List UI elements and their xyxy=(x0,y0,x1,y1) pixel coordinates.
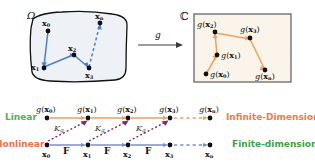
domain-label-x1-sub: 1 xyxy=(36,66,39,72)
codomain-node-gx0 xyxy=(204,72,209,77)
koopman-arrowheads xyxy=(81,121,169,126)
ladder-top-label-3-sub: 3 xyxy=(172,108,175,114)
codomain-node-gx2 xyxy=(213,30,218,35)
codomain-label-gx3: g(x3) xyxy=(240,25,260,34)
ladder-top-label-2-sub: 2 xyxy=(130,108,133,114)
domain-label-x3-sub: 3 xyxy=(90,74,93,80)
ladder-bottom-node-0 xyxy=(45,143,50,148)
koopman-operator-label-0: Kg xyxy=(54,125,64,134)
figure-root: Ω ℂ g x0 x1 x2 x3 xn g(x2) g(x3) g(x1) g… xyxy=(0,0,315,164)
flow-map-label-0: F xyxy=(63,147,69,156)
ladder-bottom-label-0: x0 xyxy=(42,150,50,159)
domain-label-x3: x3 xyxy=(85,71,93,80)
koopman-operator-label-2: Kg xyxy=(136,125,146,134)
koopman-diagonal-arrows xyxy=(48,122,166,141)
codomain-label-gx2: g(x2) xyxy=(197,20,217,29)
ladder-bottom-node-3 xyxy=(168,143,173,148)
codomain-label-gx1: g(x1) xyxy=(221,51,241,60)
ladder-bottom-label-2-sub: 2 xyxy=(128,153,131,159)
codomain-label-gx2-sub: 2 xyxy=(210,23,213,29)
ladder-top-label-n: g(xn) xyxy=(199,105,219,114)
ladder-bottom-node-1 xyxy=(86,143,91,148)
ladder-top-label-n-sub: n xyxy=(212,108,216,114)
codomain-node-gx3 xyxy=(248,36,253,41)
ladder-bottom-label-0-sub: 0 xyxy=(47,153,50,159)
ladder-top-node-2 xyxy=(126,116,131,121)
ladder-top-label-1: g(x1) xyxy=(77,105,97,114)
ladder-bottom-node-2 xyxy=(126,143,131,148)
domain-label-x1: x1 xyxy=(31,63,39,72)
flow-map-label-2: F xyxy=(145,147,151,156)
ladder-bottom-label-1: x1 xyxy=(83,150,91,159)
koopman-operator-label-1: Kg xyxy=(95,125,105,134)
domain-node-x2 xyxy=(72,53,77,58)
codomain-label-gxn-sub: n xyxy=(268,75,272,81)
ladder-bottom-label-n-sub: n xyxy=(210,153,214,159)
codomain-symbol: ℂ xyxy=(180,11,189,22)
nonlinear-row-dashed-arrowhead xyxy=(203,143,208,147)
ladder-bottom-label-1-sub: 1 xyxy=(88,153,91,159)
map-arrow-g xyxy=(138,42,183,48)
domain-label-xn: xn xyxy=(95,12,103,21)
row-label-linear: Linear xyxy=(5,113,37,122)
codomain-node-gx1 xyxy=(215,53,220,58)
ladder-top-node-n xyxy=(208,116,213,121)
domain-node-x1 xyxy=(42,66,47,71)
codomain-label-gx1-sub: 1 xyxy=(234,54,237,60)
ladder-top-label-0-sub: 0 xyxy=(49,108,52,114)
domain-label-xn-sub: n xyxy=(100,15,104,21)
domain-label-x0: x0 xyxy=(42,19,50,28)
map-label-g: g xyxy=(155,31,161,40)
linear-row-dashed-arrowhead xyxy=(203,116,208,120)
codomain-label-gx3-sub: 3 xyxy=(253,28,256,34)
row-label-finite-dimensional: Finite-dimensional xyxy=(232,140,315,149)
ladder-top-label-1-sub: 1 xyxy=(90,108,93,114)
ladder-top-label-0: g(x0) xyxy=(36,105,56,114)
ladder-top-label-3: g(x3) xyxy=(159,105,179,114)
codomain-label-gx0-sub: 0 xyxy=(223,73,226,79)
koopman-operator-label-2-sub: g xyxy=(142,127,146,133)
ladder-bottom-node-n xyxy=(208,143,213,148)
ladder-top-node-1 xyxy=(86,116,91,121)
codomain-label-gx0: g(x0) xyxy=(210,70,230,79)
domain-label-x2: x2 xyxy=(68,44,76,53)
domain-node-xn xyxy=(98,21,103,26)
ladder-top-node-3 xyxy=(168,116,173,121)
koopman-operator-label-1-sub: g xyxy=(101,127,105,133)
ladder-bottom-label-n: xn xyxy=(205,150,213,159)
row-label-nonlinear: Nonlinear xyxy=(0,140,44,149)
koopman-operator-label-0-sub: g xyxy=(60,127,64,133)
flow-map-label-1: F xyxy=(104,147,110,156)
domain-node-x0 xyxy=(46,29,51,34)
domain-label-x2-sub: 2 xyxy=(73,47,76,53)
ladder-top-node-0 xyxy=(45,116,50,121)
ladder-bottom-label-2: x2 xyxy=(123,150,131,159)
ladder-bottom-label-3-sub: 3 xyxy=(170,153,173,159)
codomain-label-gxn: g(xn) xyxy=(255,72,275,81)
row-label-infinite-dimensional: Infinite-Dimensional xyxy=(226,113,315,122)
omega-symbol: Ω xyxy=(27,11,35,21)
ladder-bottom-label-3: x3 xyxy=(165,150,173,159)
ladder-top-label-2: g(x2) xyxy=(117,105,137,114)
domain-label-x0-sub: 0 xyxy=(47,22,50,28)
